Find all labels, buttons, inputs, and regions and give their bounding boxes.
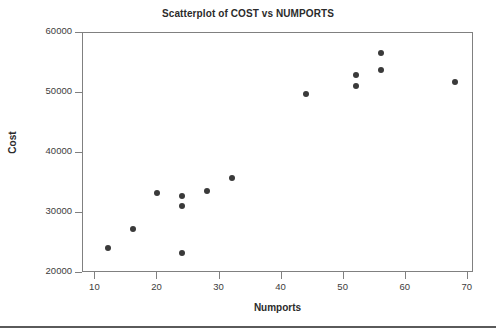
- data-point: [154, 190, 160, 196]
- y-axis-tick-label: 60000: [18, 25, 72, 36]
- scatterplot-figure: Scatterplot of COST vs NUMPORTS 20000300…: [0, 0, 496, 331]
- y-axis-tick-label: 20000: [18, 265, 72, 276]
- x-axis-title: Numports: [82, 302, 473, 313]
- x-axis-tick: [156, 272, 157, 279]
- y-axis-tick-label: 30000: [18, 205, 72, 216]
- y-axis-tick: [75, 272, 82, 273]
- data-point: [452, 79, 458, 85]
- x-axis-tick: [467, 272, 468, 279]
- x-axis-tick: [405, 272, 406, 279]
- data-point: [303, 91, 309, 97]
- y-axis-tick-label: 50000: [18, 85, 72, 96]
- y-axis-tick: [75, 32, 82, 33]
- data-point: [179, 203, 185, 209]
- y-axis-tick-label: 40000: [18, 145, 72, 156]
- x-axis-tick-label: 70: [447, 281, 487, 292]
- x-axis-tick: [343, 272, 344, 279]
- data-point: [204, 188, 210, 194]
- data-point: [353, 72, 359, 78]
- data-point: [229, 175, 235, 181]
- y-axis-title: Cost: [7, 113, 18, 173]
- data-point: [378, 67, 384, 73]
- chart-title: Scatterplot of COST vs NUMPORTS: [0, 8, 496, 19]
- data-point: [378, 50, 384, 56]
- data-point: [130, 226, 136, 232]
- page-bottom-rule: [0, 326, 496, 328]
- data-point: [353, 83, 359, 89]
- x-axis-tick-label: 60: [385, 281, 425, 292]
- x-axis-tick-label: 50: [323, 281, 363, 292]
- x-axis-tick-label: 10: [74, 281, 114, 292]
- data-point: [179, 250, 185, 256]
- x-axis-tick-label: 30: [199, 281, 239, 292]
- x-axis-tick: [219, 272, 220, 279]
- x-axis-tick: [94, 272, 95, 279]
- plot-area: [82, 32, 473, 272]
- data-point: [105, 245, 111, 251]
- data-points-layer: [83, 33, 472, 271]
- x-axis-tick-label: 40: [261, 281, 301, 292]
- data-point: [179, 193, 185, 199]
- y-axis-tick: [75, 212, 82, 213]
- y-axis-tick: [75, 152, 82, 153]
- x-axis-tick: [281, 272, 282, 279]
- x-axis-tick-label: 20: [136, 281, 176, 292]
- y-axis-tick: [75, 92, 82, 93]
